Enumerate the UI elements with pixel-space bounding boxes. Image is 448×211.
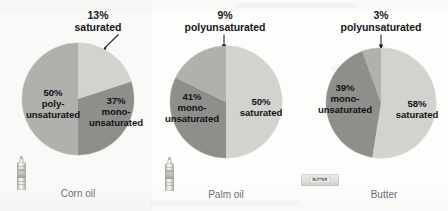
callout-label-corn-oil: 13% saturated [48, 10, 148, 33]
slice-label-mono-unsaturated-palm: 41% mono- unsaturated [156, 92, 228, 125]
slice-value: 37% [107, 95, 126, 106]
slice-name-b: unsaturated [165, 113, 219, 124]
pie-caption-corn-oil: Corn oil [40, 188, 116, 199]
oil-bottle-icon [17, 156, 26, 190]
slice-label-saturated-palm: 50% saturated [228, 97, 294, 119]
slice-name-a: mono- [331, 93, 360, 104]
slice-value: 58% [408, 98, 427, 109]
callout-name-corn-oil: saturated [48, 22, 148, 34]
fat-composition-pie-figure: 13% saturated 50% poly- unsaturated 37% … [0, 0, 448, 211]
pie-caption-butter: Butter [346, 189, 422, 200]
callout-label-butter: 3% polyunsaturated [316, 10, 446, 33]
oil-bottle-icon [165, 157, 174, 191]
slice-name-a: mono- [102, 106, 131, 117]
butter-pack-icon: BUTTER [301, 174, 339, 186]
slice-name-b: unsaturated [26, 109, 80, 120]
slice-label-poly-unsaturated-corn: 50% poly- unsaturated [18, 88, 88, 121]
slice-label-saturated-butter: 58% saturated [386, 99, 448, 121]
slice-name-b: unsaturated [318, 104, 372, 115]
callout-label-palm-oil: 9% polyunsaturated [160, 10, 290, 33]
slice-name-a: saturated [240, 107, 282, 118]
slice-name-a: mono- [178, 102, 207, 113]
callout-name-butter: polyunsaturated [316, 22, 446, 34]
callout-value-corn-oil: 13% [88, 9, 109, 21]
slice-name-b: unsaturated [89, 117, 143, 128]
butter-pack-label: BUTTER [310, 178, 330, 182]
slice-value: 41% [183, 91, 202, 102]
callout-name-palm-oil: polyunsaturated [160, 22, 290, 34]
slice-name-a: poly- [42, 98, 65, 109]
callout-value-butter: 3% [373, 9, 388, 21]
pie-caption-palm-oil: Palm oil [188, 189, 264, 200]
slice-value: 50% [44, 87, 63, 98]
slice-value: 39% [336, 82, 355, 93]
pie-panel-butter: 3% polyunsaturated 39% mono- unsaturated… [298, 0, 448, 211]
slice-value: 50% [252, 96, 271, 107]
pie-panel-corn-oil: 13% saturated 50% poly- unsaturated 37% … [0, 0, 150, 211]
pie-panel-palm-oil: 9% polyunsaturated 41% mono- unsaturated… [150, 0, 298, 211]
slice-label-mono-unsaturated-butter: 39% mono- unsaturated [308, 83, 382, 116]
slice-label-mono-unsaturated-corn: 37% mono- unsaturated [82, 96, 150, 129]
slice-name-a: saturated [396, 109, 438, 120]
callout-value-palm-oil: 9% [217, 9, 232, 21]
